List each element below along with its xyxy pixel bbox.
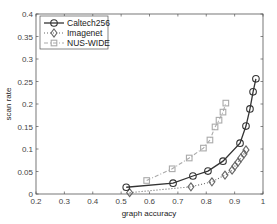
legend-item: Caltech256 [44,18,110,28]
x-tick-label: 0.8 [201,197,213,206]
x-tick-label: 0.5 [116,197,128,206]
legend-label: Imagenet [67,28,103,38]
legend: Caltech256ImagenetNUS-WIDE [40,16,110,49]
x-axis-label: graph accuracy [122,209,177,218]
legend-label: NUS-WIDE [67,38,110,48]
y-tick-label: 0.1 [22,145,34,154]
scan-rate-vs-accuracy-chart: 0.20.30.40.50.60.70.80.91 00.050.10.150.… [0,0,277,224]
y-tick-label: 0.35 [17,33,33,42]
x-tick-label: 0.4 [87,197,99,206]
x-tick-label: 0.9 [229,197,241,206]
y-tick-label: 0.25 [17,78,33,87]
x-tick-label: 0.6 [144,197,156,206]
x-tick-label: 0.3 [59,197,71,206]
x-tick-label: 0.7 [172,197,184,206]
x-tick-label: 1 [261,197,266,206]
y-tick-label: 0.15 [17,123,33,132]
y-axis-label: scan rate [4,87,13,120]
legend-label: Caltech256 [67,18,110,28]
y-tick-label: 0.2 [22,100,34,109]
y-tick-label: 0.05 [17,168,33,177]
y-tick-label: 0.3 [22,55,34,64]
y-tick-label: 0.4 [22,10,34,19]
y-tick-label: 0 [29,190,34,199]
